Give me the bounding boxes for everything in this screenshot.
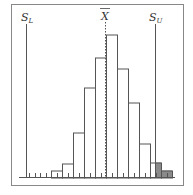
- histogram-figure: SL SU X: [0, 0, 193, 195]
- upper-spec-limit-label: SU: [149, 11, 164, 25]
- histogram-bar: [74, 133, 85, 178]
- histogram-bar: [118, 69, 129, 178]
- histogram-bar: [140, 144, 151, 178]
- histogram-bar: [96, 58, 107, 178]
- lower-spec-limit-label: SL: [21, 11, 34, 25]
- figure-frame: [12, 5, 184, 186]
- x-axis-ticks: [30, 173, 173, 178]
- shaded-out-of-spec-area: [161, 171, 172, 178]
- histogram-bar: [129, 103, 140, 178]
- histogram-bars: [52, 35, 173, 178]
- histogram-bar: [85, 88, 96, 178]
- mean-label: X: [100, 10, 110, 23]
- histogram-bar: [107, 35, 118, 178]
